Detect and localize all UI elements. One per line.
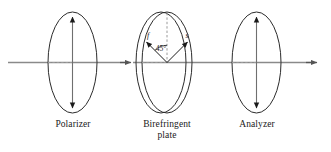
angle-label-45deg: 45°: [156, 44, 167, 53]
birefringent-plate-element: f s 45°: [136, 12, 192, 113]
polarizer-caption: Polarizer: [33, 119, 113, 130]
slow-axis-label: s: [185, 31, 188, 40]
analyzer-caption: Analyzer: [217, 119, 297, 130]
optics-diagram-figure: f s 45° Polarizer Birefringent plate Ana…: [0, 0, 331, 152]
birefringent-plate-caption: Birefringent plate: [127, 119, 207, 141]
